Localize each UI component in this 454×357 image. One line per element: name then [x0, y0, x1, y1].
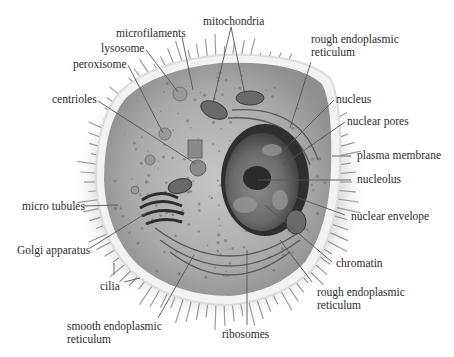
- label-peroxisome: peroxisome: [73, 58, 127, 71]
- label-rough-er-top: rough endoplasmic reticulum: [311, 33, 399, 59]
- cell-diagram: microfilamentsmitochondrialysosomeperoxi…: [0, 0, 454, 357]
- label-nuclear-envelope: nuclear envelope: [351, 210, 429, 223]
- label-nucleolus: nucleolus: [357, 173, 401, 186]
- label-microfilaments: microfilaments: [116, 27, 186, 40]
- label-mitochondria: mitochondria: [203, 15, 264, 28]
- label-centrioles: centrioles: [52, 93, 97, 106]
- label-micro-tubules: micro tubules: [22, 200, 85, 213]
- label-plasma-membrane: plasma membrane: [357, 149, 441, 162]
- label-golgi-apparatus: Golgi apparatus: [17, 244, 90, 257]
- label-ribosomes: ribosomes: [222, 328, 269, 341]
- label-rough-er-bottom: rough endoplasmic reticulum: [317, 286, 405, 312]
- label-cilia: cilia: [100, 280, 120, 293]
- label-chromatin: chromatin: [336, 257, 383, 270]
- label-nucleus: nucleus: [336, 93, 371, 106]
- nucleolus-shape: [243, 166, 271, 190]
- label-smooth-er: smooth endoplasmic reticulum: [67, 320, 162, 346]
- label-lysosome: lysosome: [101, 42, 144, 55]
- label-nuclear-pores: nuclear pores: [347, 115, 409, 128]
